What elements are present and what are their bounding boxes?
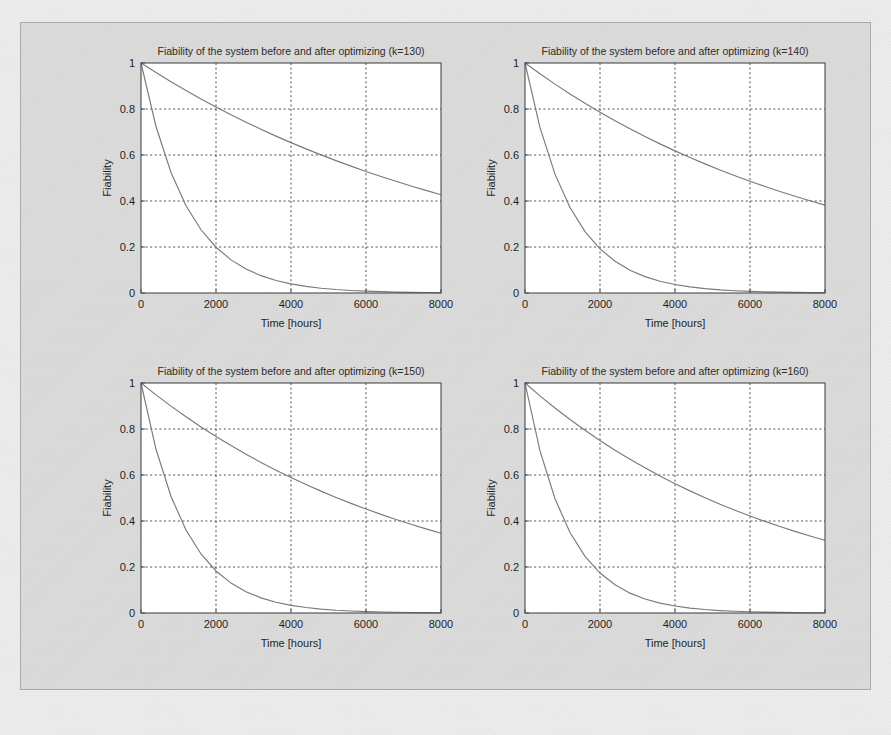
y-tick-label: 1	[129, 57, 135, 69]
x-axis-label: Time [hours]	[645, 317, 706, 329]
y-tick-label: 0	[513, 607, 519, 619]
chart-title: Fiability of the system before and after…	[157, 365, 424, 377]
chart-svg: Fiability of the system before and after…	[89, 41, 489, 361]
x-tick-label: 0	[138, 298, 144, 310]
x-tick-label: 4000	[279, 298, 303, 310]
y-tick-label: 0.8	[504, 423, 519, 435]
y-tick-label: 0.6	[504, 149, 519, 161]
y-tick-label: 0.4	[504, 195, 519, 207]
x-tick-label: 8000	[429, 618, 453, 630]
subplot-k150: Fiability of the system before and after…	[89, 361, 489, 681]
y-tick-label: 0	[513, 287, 519, 299]
y-tick-label: 0.2	[120, 241, 135, 253]
subplot-k140: Fiability of the system before and after…	[473, 41, 873, 361]
x-tick-label: 2000	[204, 298, 228, 310]
x-tick-label: 8000	[813, 298, 837, 310]
x-tick-label: 8000	[813, 618, 837, 630]
matlab-figure-panel: Fiability of the system before and after…	[20, 22, 871, 690]
chart-svg: Fiability of the system before and after…	[473, 41, 873, 361]
y-tick-label: 1	[513, 377, 519, 389]
chart-svg: Fiability of the system before and after…	[89, 361, 489, 681]
y-tick-label: 0.8	[504, 103, 519, 115]
y-tick-label: 0.2	[504, 241, 519, 253]
y-tick-label: 1	[513, 57, 519, 69]
y-axis-label: Fiability	[101, 159, 113, 197]
x-tick-label: 0	[522, 618, 528, 630]
x-tick-label: 0	[522, 298, 528, 310]
y-tick-label: 0.4	[120, 515, 135, 527]
y-tick-label: 1	[129, 377, 135, 389]
y-axis-label: Fiability	[101, 479, 113, 517]
y-axis-label: Fiability	[485, 479, 497, 517]
y-tick-label: 0.6	[504, 469, 519, 481]
subplot-k160: Fiability of the system before and after…	[473, 361, 873, 681]
y-tick-label: 0.2	[120, 561, 135, 573]
y-tick-label: 0.6	[120, 469, 135, 481]
x-tick-label: 2000	[588, 618, 612, 630]
x-axis-label: Time [hours]	[645, 637, 706, 649]
y-tick-label: 0.2	[504, 561, 519, 573]
x-tick-label: 4000	[279, 618, 303, 630]
subplot-k130: Fiability of the system before and after…	[89, 41, 489, 361]
chart-svg: Fiability of the system before and after…	[473, 361, 873, 681]
x-tick-label: 4000	[663, 298, 687, 310]
x-tick-label: 2000	[588, 298, 612, 310]
y-tick-label: 0.8	[120, 103, 135, 115]
x-tick-label: 6000	[354, 618, 378, 630]
x-tick-label: 4000	[663, 618, 687, 630]
x-tick-label: 0	[138, 618, 144, 630]
y-axis-label: Fiability	[485, 159, 497, 197]
y-tick-label: 0	[129, 287, 135, 299]
x-axis-label: Time [hours]	[261, 317, 322, 329]
y-tick-label: 0	[129, 607, 135, 619]
chart-title: Fiability of the system before and after…	[157, 45, 424, 57]
chart-title: Fiability of the system before and after…	[541, 45, 808, 57]
x-tick-label: 8000	[429, 298, 453, 310]
y-tick-label: 0.6	[120, 149, 135, 161]
x-tick-label: 2000	[204, 618, 228, 630]
x-tick-label: 6000	[738, 618, 762, 630]
x-tick-label: 6000	[354, 298, 378, 310]
y-tick-label: 0.8	[120, 423, 135, 435]
x-axis-label: Time [hours]	[261, 637, 322, 649]
x-tick-label: 6000	[738, 298, 762, 310]
chart-title: Fiability of the system before and after…	[541, 365, 808, 377]
y-tick-label: 0.4	[504, 515, 519, 527]
y-tick-label: 0.4	[120, 195, 135, 207]
